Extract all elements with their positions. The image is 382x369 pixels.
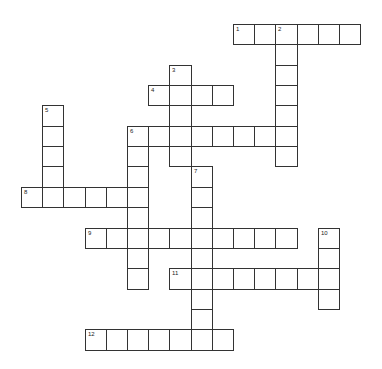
crossword-cell[interactable]	[127, 166, 149, 188]
crossword-cell[interactable]	[42, 166, 64, 188]
crossword-cell[interactable]	[254, 126, 276, 147]
crossword-cell[interactable]	[212, 126, 234, 147]
crossword-cell[interactable]	[191, 268, 213, 290]
crossword-cell[interactable]	[106, 329, 128, 351]
crossword-cell[interactable]	[127, 248, 149, 269]
crossword-cell[interactable]	[191, 187, 213, 208]
crossword-cell[interactable]	[254, 228, 276, 249]
crossword-cell[interactable]	[127, 146, 149, 167]
crossword-cell[interactable]	[275, 126, 298, 147]
crossword-cell[interactable]	[275, 268, 298, 290]
crossword-cell[interactable]: 4	[148, 85, 170, 106]
clue-number: 4	[151, 87, 154, 93]
crossword-cell[interactable]	[275, 105, 298, 127]
crossword-cell[interactable]	[212, 329, 234, 351]
crossword-cell[interactable]	[191, 207, 213, 229]
crossword-cell[interactable]: 2	[275, 24, 298, 45]
crossword-cell[interactable]	[318, 248, 340, 269]
clue-number: 2	[278, 26, 281, 32]
crossword-cell[interactable]	[191, 228, 213, 249]
clue-number: 6	[130, 128, 133, 134]
crossword-cell[interactable]	[169, 85, 192, 106]
crossword-cell[interactable]	[169, 146, 192, 167]
crossword-cell[interactable]	[318, 268, 340, 290]
crossword-cell[interactable]	[127, 228, 149, 249]
crossword-cell[interactable]: 10	[318, 228, 340, 249]
crossword-cell[interactable]	[212, 228, 234, 249]
crossword-cell[interactable]	[148, 228, 170, 249]
crossword-cell[interactable]	[233, 228, 255, 249]
crossword-cell[interactable]	[191, 126, 213, 147]
crossword-cell[interactable]	[106, 187, 128, 208]
crossword-cell[interactable]	[169, 329, 192, 351]
crossword-cell[interactable]	[297, 268, 319, 290]
crossword-cell[interactable]	[127, 207, 149, 229]
crossword-cell[interactable]	[148, 126, 170, 147]
crossword-cell[interactable]	[233, 126, 255, 147]
crossword-cell[interactable]	[63, 187, 86, 208]
crossword-cell[interactable]	[191, 248, 213, 269]
crossword-cell[interactable]	[275, 146, 298, 167]
crossword-cell[interactable]	[339, 24, 361, 45]
crossword-cell[interactable]	[42, 126, 64, 147]
clue-number: 11	[172, 270, 178, 276]
crossword-cell[interactable]	[42, 146, 64, 167]
crossword-cell[interactable]: 9	[85, 228, 107, 249]
clue-number: 9	[88, 230, 91, 236]
crossword-cell[interactable]	[212, 85, 234, 106]
crossword-cell[interactable]	[191, 329, 213, 351]
crossword-cell[interactable]	[275, 85, 298, 106]
crossword-cell[interactable]	[106, 228, 128, 249]
clue-number: 10	[321, 230, 328, 236]
crossword-cell[interactable]: 3	[169, 65, 192, 86]
crossword-cell[interactable]: 5	[42, 105, 64, 127]
crossword-cell[interactable]	[275, 44, 298, 66]
crossword-cell[interactable]: 7	[191, 166, 213, 188]
crossword-cell[interactable]: 8	[21, 187, 43, 208]
crossword-cell[interactable]	[169, 105, 192, 127]
clue-number: 3	[172, 67, 175, 73]
crossword-cell[interactable]	[42, 187, 64, 208]
crossword-cell[interactable]	[212, 268, 234, 290]
crossword-cell[interactable]: 6	[127, 126, 149, 147]
crossword-cell[interactable]	[254, 24, 276, 45]
crossword-cell[interactable]: 12	[85, 329, 107, 351]
crossword-cell[interactable]	[191, 309, 213, 330]
crossword-cell[interactable]	[233, 268, 255, 290]
crossword-cell[interactable]	[169, 126, 192, 147]
clue-number: 1	[236, 26, 239, 32]
clue-number: 5	[45, 107, 48, 113]
crossword-cell[interactable]	[254, 268, 276, 290]
crossword-cell[interactable]	[127, 187, 149, 208]
crossword-grid: 123456789101112	[0, 0, 382, 369]
clue-number: 8	[24, 189, 27, 195]
crossword-cell[interactable]: 1	[233, 24, 255, 45]
crossword-cell[interactable]	[127, 329, 149, 351]
crossword-cell[interactable]	[318, 289, 340, 310]
crossword-cell[interactable]	[191, 85, 213, 106]
crossword-cell[interactable]	[191, 289, 213, 310]
crossword-cell[interactable]	[85, 187, 107, 208]
crossword-cell[interactable]	[275, 228, 298, 249]
crossword-cell[interactable]	[148, 329, 170, 351]
crossword-cell[interactable]	[169, 228, 192, 249]
clue-number: 12	[88, 331, 95, 337]
crossword-cell[interactable]	[318, 24, 340, 45]
crossword-cell[interactable]	[275, 65, 298, 86]
crossword-cell[interactable]	[127, 268, 149, 290]
clue-number: 7	[194, 168, 197, 174]
crossword-cell[interactable]	[297, 24, 319, 45]
crossword-cell[interactable]: 11	[169, 268, 192, 290]
